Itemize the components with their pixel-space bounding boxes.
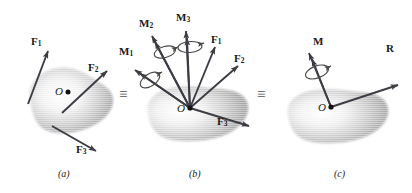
panel-c-origin-dot — [328, 104, 333, 109]
vector-label-F1-b: F1 — [211, 33, 221, 46]
panel-caption-c: (c) — [334, 168, 345, 179]
panel-b-origin-dot — [187, 105, 192, 110]
vector-label-M-c: M — [313, 35, 323, 48]
equivalence-sign-b-c: ≡ — [257, 86, 265, 103]
vector-label-M3-b: M3 — [176, 11, 190, 24]
origin-label-b: O — [177, 102, 185, 114]
vector-label-F3-a: F3 — [76, 143, 86, 156]
vector-label-M2-b: M2 — [139, 17, 153, 30]
vector-label-R-c: R — [386, 42, 394, 55]
vector-label-F2-a: F2 — [88, 61, 98, 74]
origin-label-a: O — [55, 85, 63, 97]
vector-label-F3-b: F3 — [217, 115, 227, 128]
panel-caption-b: (b) — [189, 168, 201, 179]
figure-canvas: ≡ ≡ F1 F2 F3 O (a) M1 M2 M3 F1 F2 F3 O (… — [0, 0, 412, 193]
origin-label-c: O — [318, 101, 326, 113]
panel-a-origin-dot — [66, 90, 71, 95]
equivalence-sign-a-b: ≡ — [119, 86, 127, 103]
vector-label-F1-a: F1 — [31, 35, 41, 48]
panel-caption-a: (a) — [58, 168, 70, 179]
panel-c-body — [288, 89, 388, 143]
vector-label-M1-b: M1 — [119, 45, 133, 58]
moment-M3-spiral — [178, 41, 203, 54]
vector-label-F2-b: F2 — [234, 52, 244, 65]
panel-b-body — [148, 86, 248, 141]
